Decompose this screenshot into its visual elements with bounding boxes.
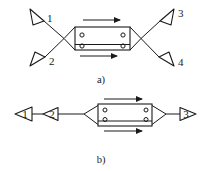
antenna-3-label: 3 (178, 7, 184, 19)
figure-container: 1 2 3 4 a) (0, 0, 203, 172)
antenna-3-horn-icon (160, 9, 174, 25)
antenna-3 (160, 9, 174, 25)
panel-a-line-to-antenna-2 (45, 39, 64, 58)
antenna-1-label: 1 (47, 12, 53, 24)
panel-a-coupler-body (75, 27, 130, 50)
panel-a: 1 2 3 4 a) (30, 7, 184, 86)
panel-b: 1 2 3 b) (15, 99, 196, 166)
antenna-4 (159, 52, 174, 66)
panel-a-right-feeds (130, 21, 160, 57)
antenna-1-panel-b-label: 1 (22, 108, 28, 120)
antenna-1 (30, 9, 44, 25)
diagram-svg: 1 2 3 4 a) (0, 0, 203, 172)
panel-b-right-feeds (152, 106, 180, 125)
antenna-2-label: 2 (49, 55, 55, 67)
panel-a-feed-lower-left (64, 39, 75, 51)
panel-b-feed-upper-left (84, 106, 98, 115)
panel-b-coupler-rect (98, 104, 152, 126)
antenna-2 (30, 52, 45, 66)
panel-b-feed-upper-right (152, 106, 166, 115)
panel-b-left-feeds (55, 106, 98, 125)
antenna-3-panel-b-label: 3 (183, 108, 189, 120)
panel-a-coupler-rect (75, 27, 130, 50)
panel-a-line-to-antenna-3 (141, 21, 160, 39)
panel-b-feed-lower-left (84, 114, 98, 125)
panel-b-feed-lower-right (152, 114, 166, 125)
antenna-2-horn-icon (30, 52, 45, 66)
antenna-4-horn-icon (159, 52, 174, 66)
antenna-1-horn-icon (30, 9, 44, 25)
antenna-4-label: 4 (178, 56, 184, 68)
panel-a-feed-lower-right (130, 39, 141, 51)
panel-a-left-feeds (44, 21, 75, 57)
panel-b-caption: b) (97, 154, 106, 166)
panel-a-caption: a) (97, 74, 106, 86)
panel-a-feed-upper-left (64, 27, 75, 39)
antenna-2-panel-b-label: 2 (49, 108, 55, 120)
panel-a-feed-upper-right (130, 27, 141, 39)
panel-b-coupler-body (98, 104, 152, 126)
panel-a-line-to-antenna-4 (141, 39, 159, 58)
